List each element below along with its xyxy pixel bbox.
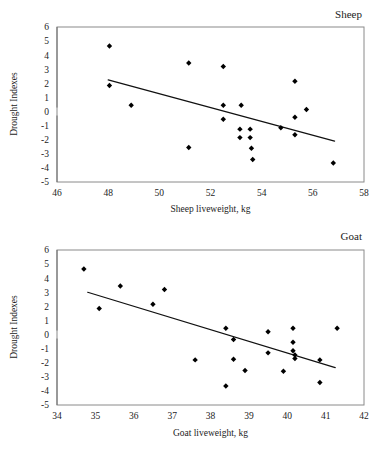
plot-frame — [57, 27, 364, 182]
chart-title: Goat — [341, 230, 362, 242]
data-point-marker — [317, 380, 322, 385]
data-point-marker — [118, 283, 123, 288]
y-tick-label: 2 — [44, 79, 49, 89]
x-axis-title: Goat liveweight, kg — [173, 428, 248, 438]
data-point-marker — [128, 103, 133, 108]
data-point-marker — [265, 329, 270, 334]
x-tick-label: 56 — [308, 188, 318, 198]
data-point-marker — [186, 60, 191, 65]
data-point-marker — [247, 135, 252, 140]
data-point-marker — [107, 43, 112, 48]
y-tick-label: -4 — [41, 163, 49, 173]
y-tick-label: -5 — [41, 177, 49, 187]
x-tick-label: 46 — [52, 188, 62, 198]
y-tick-label: 3 — [44, 65, 49, 75]
data-point-marker — [331, 160, 336, 165]
y-tick-label: -3 — [41, 149, 49, 159]
x-tick-labels: 46485052545658 — [52, 188, 369, 198]
scatter-chart-goat: Goat6543210-1-2-3-4-5343536373839404142G… — [0, 222, 385, 451]
y-tick-label: 4 — [44, 51, 49, 61]
data-point-marker — [292, 132, 297, 137]
data-point-marker — [292, 79, 297, 84]
data-point-marker — [247, 126, 252, 131]
y-tick-label: -3 — [41, 372, 49, 382]
data-points — [81, 266, 340, 388]
data-point-marker — [150, 302, 155, 307]
data-point-marker — [334, 326, 339, 331]
data-point-marker — [81, 266, 86, 271]
x-tick-label: 42 — [359, 411, 369, 421]
trendline — [108, 80, 334, 141]
data-point-marker — [304, 107, 309, 112]
data-point-marker — [239, 103, 244, 108]
y-tick-label: 0 — [44, 107, 49, 117]
x-tick-label: 52 — [206, 188, 216, 198]
y-tick-label: -2 — [41, 358, 49, 368]
data-point-marker — [242, 368, 247, 373]
scatter-chart-sheep: Sheep6543210-1-2-3-4-546485052545658Shee… — [0, 0, 385, 225]
data-point-marker — [162, 287, 167, 292]
y-tick-label: -1 — [41, 121, 49, 131]
y-tick-label: 6 — [44, 22, 49, 32]
y-tick-label: 2 — [44, 302, 49, 312]
data-point-marker — [237, 126, 242, 131]
x-tick-label: 40 — [283, 411, 293, 421]
data-point-marker — [192, 357, 197, 362]
data-point-marker — [249, 145, 254, 150]
data-point-marker — [221, 117, 226, 122]
x-tick-label: 50 — [155, 188, 165, 198]
y-tick-label: 6 — [44, 245, 49, 255]
data-point-marker — [237, 135, 242, 140]
y-tick-labels: 6543210-1-2-3-4-5 — [41, 22, 49, 187]
x-tick-label: 34 — [52, 411, 62, 421]
y-tick-label: -1 — [41, 344, 49, 354]
y-axis-title: Drought Indexes — [9, 72, 19, 136]
x-axis-title: Sheep liveweight, kg — [171, 204, 251, 214]
x-tick-label: 54 — [257, 188, 267, 198]
data-point-marker — [290, 326, 295, 331]
data-point-marker — [265, 350, 270, 355]
y-tick-label: -5 — [41, 400, 49, 410]
data-point-marker — [290, 340, 295, 345]
data-point-marker — [97, 306, 102, 311]
y-tick-label: -2 — [41, 135, 49, 145]
y-tick-label: 3 — [44, 288, 49, 298]
data-points — [107, 43, 336, 165]
data-point-marker — [223, 383, 228, 388]
trendline — [88, 292, 336, 367]
data-point-marker — [107, 83, 112, 88]
data-point-marker — [223, 326, 228, 331]
data-point-marker — [221, 103, 226, 108]
y-axis-title: Drought Indexes — [9, 295, 19, 359]
data-point-marker — [281, 368, 286, 373]
x-tick-label: 38 — [206, 411, 216, 421]
data-point-marker — [292, 114, 297, 119]
y-tick-label: 1 — [44, 316, 49, 326]
y-tick-label: 1 — [44, 93, 49, 103]
x-tick-label: 48 — [103, 188, 113, 198]
data-point-marker — [250, 157, 255, 162]
figure-container: Sheep6543210-1-2-3-4-546485052545658Shee… — [0, 0, 385, 451]
y-tick-label: 5 — [44, 36, 49, 46]
y-tick-label: 4 — [44, 274, 49, 284]
y-tick-label: -4 — [41, 386, 49, 396]
x-tick-label: 39 — [244, 411, 254, 421]
data-point-marker — [186, 145, 191, 150]
data-point-marker — [221, 64, 226, 69]
x-tick-label: 41 — [321, 411, 331, 421]
x-tick-label: 37 — [167, 411, 177, 421]
x-tick-label: 58 — [359, 188, 369, 198]
x-tick-labels: 343536373839404142 — [52, 411, 369, 421]
data-point-marker — [231, 357, 236, 362]
chart-panel-sheep: Sheep6543210-1-2-3-4-546485052545658Shee… — [0, 0, 385, 225]
x-tick-label: 35 — [91, 411, 101, 421]
y-tick-label: 0 — [44, 330, 49, 340]
chart-title: Sheep — [335, 8, 362, 20]
y-tick-label: 5 — [44, 259, 49, 269]
chart-panel-goat: Goat6543210-1-2-3-4-5343536373839404142G… — [0, 222, 385, 451]
x-tick-label: 36 — [129, 411, 139, 421]
y-tick-labels: 6543210-1-2-3-4-5 — [41, 245, 49, 410]
